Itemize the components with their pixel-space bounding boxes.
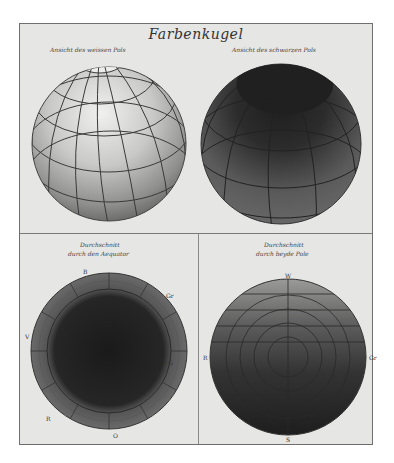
label-gr: Gr [166,292,174,299]
black-pole-globe [192,54,372,229]
label-gr-poles: Gr [369,354,377,361]
poles-section-disc [210,279,366,435]
label-v: V [25,333,29,340]
label-b: B [83,268,87,275]
color-sphere-plate: Farbenkugel Ansicht des weissen Pols Ans… [19,23,373,445]
label-s: S [286,436,290,443]
white-pole-globe [24,40,198,227]
sphere-drawings [20,24,374,446]
label-r: R [46,415,51,422]
label-w: W [285,272,291,279]
label-o: O [113,432,118,439]
equator-section-disc [31,273,187,429]
label-r-poles: R [203,354,208,361]
label-g: G [168,359,173,366]
